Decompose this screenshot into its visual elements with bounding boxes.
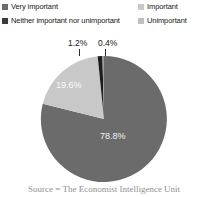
legend-item-very-important[interactable]: Very important (2, 2, 58, 11)
legend-label: Unimportant (147, 16, 187, 25)
legend-item-neither-important-nor-unimportant[interactable]: Neither important nor unimportant (2, 16, 120, 25)
square-marker-icon (2, 4, 8, 10)
pie-graphic (40, 55, 168, 183)
square-marker-icon (2, 18, 8, 24)
legend-label: Important (147, 2, 178, 11)
slice-value-important: 19.6% (56, 80, 82, 91)
legend-item-unimportant[interactable]: Unimportant (138, 16, 187, 25)
legend-item-important[interactable]: Important (138, 2, 178, 11)
callout-label-unimportant: 0.4% (98, 38, 117, 48)
chart-plot-area: 1.2% 0.4% 19.6% 78.8% (0, 30, 205, 185)
square-marker-icon (138, 18, 144, 24)
square-marker-icon (138, 4, 144, 10)
callout-label-neither: 1.2% (68, 38, 87, 48)
legend-label: Very important (11, 2, 58, 11)
slice-value-very-important: 78.8% (100, 131, 126, 142)
source-attribution: Source = The Economist Intelligence Unit (28, 184, 180, 195)
pie-chart-figure: Very important Important Neither importa… (0, 0, 205, 197)
legend-label: Neither important nor unimportant (11, 16, 120, 25)
chart-legend: Very important Important Neither importa… (0, 0, 205, 30)
pie-svg (40, 55, 168, 183)
